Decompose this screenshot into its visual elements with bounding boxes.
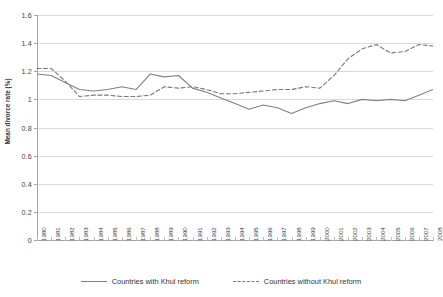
- x-tick-mark: [320, 237, 321, 241]
- y-tick-label: 0.8: [0, 124, 32, 133]
- x-tick-mark: [178, 237, 179, 241]
- x-tick-mark: [292, 237, 293, 241]
- x-tick-label: 1987: [139, 227, 146, 241]
- x-tick-mark: [306, 237, 307, 241]
- x-tick-label: 1988: [153, 227, 160, 241]
- x-tick-label: 2004: [379, 227, 386, 241]
- x-tick-label: 1990: [181, 227, 188, 241]
- y-tick-label: 0.2: [0, 208, 32, 217]
- x-tick-mark: [419, 237, 420, 241]
- x-tick-label: 1984: [97, 227, 104, 241]
- x-tick-label: 1994: [238, 227, 245, 241]
- plot-area: [37, 15, 433, 240]
- x-tick-mark: [249, 237, 250, 241]
- x-tick-mark: [362, 237, 363, 241]
- x-tick-label: 1981: [54, 227, 61, 241]
- x-tick-mark: [193, 237, 194, 241]
- x-tick-label: 1985: [111, 227, 118, 241]
- y-tick-label: 0: [0, 236, 32, 245]
- x-tick-mark: [164, 237, 165, 241]
- x-tick-label: 1980: [40, 227, 47, 241]
- y-tick-label: 0.4: [0, 180, 32, 189]
- y-tick-label: 1.6: [0, 11, 32, 20]
- x-tick-label: 2006: [408, 227, 415, 241]
- x-tick-mark: [37, 237, 38, 241]
- legend-item-without-reform[interactable]: Countries without Khul reform: [233, 277, 361, 286]
- x-tick-label: 1997: [280, 227, 287, 241]
- x-tick-label: 2001: [337, 227, 344, 241]
- x-tick-label: 1989: [167, 227, 174, 241]
- y-tick-label: 0.6: [0, 152, 32, 161]
- x-tick-mark: [51, 237, 52, 241]
- series-svg: [37, 15, 433, 240]
- x-tick-mark: [277, 237, 278, 241]
- x-tick-label: 1983: [82, 227, 89, 241]
- x-tick-mark: [65, 237, 66, 241]
- x-tick-mark: [122, 237, 123, 241]
- y-tick-label: 1: [0, 95, 32, 104]
- solid-line-icon: [81, 278, 107, 286]
- series-line-without-reform: [37, 45, 433, 97]
- x-tick-mark: [376, 237, 377, 241]
- x-tick-mark: [94, 237, 95, 241]
- x-tick-label: 1986: [125, 227, 132, 241]
- x-tick-label: 2005: [394, 227, 401, 241]
- chart-legend: Countries with Khul reform Countries wit…: [0, 277, 442, 286]
- legend-item-with-reform[interactable]: Countries with Khul reform: [81, 277, 199, 286]
- x-tick-mark: [334, 237, 335, 241]
- x-tick-mark: [348, 237, 349, 241]
- x-tick-label: 1995: [252, 227, 259, 241]
- x-tick-mark: [235, 237, 236, 241]
- x-tick-label: 1991: [196, 227, 203, 241]
- x-tick-mark: [108, 237, 109, 241]
- x-tick-mark: [150, 237, 151, 241]
- dashed-line-icon: [233, 278, 259, 286]
- x-tick-label: 2000: [323, 227, 330, 241]
- x-tick-label: 1999: [309, 227, 316, 241]
- x-tick-label: 1996: [266, 227, 273, 241]
- x-tick-mark: [79, 237, 80, 241]
- x-tick-label: 2008: [436, 227, 443, 241]
- x-tick-mark: [221, 237, 222, 241]
- x-tick-mark: [136, 237, 137, 241]
- x-tick-label: 1998: [295, 227, 302, 241]
- legend-label-with-reform: Countries with Khul reform: [112, 277, 199, 286]
- x-tick-mark: [263, 237, 264, 241]
- x-tick-mark: [391, 237, 392, 241]
- x-tick-mark: [207, 237, 208, 241]
- x-tick-mark: [405, 237, 406, 241]
- y-tick-label: 1.2: [0, 67, 32, 76]
- x-tick-label: 1992: [210, 227, 217, 241]
- legend-label-without-reform: Countries without Khul reform: [264, 277, 361, 286]
- x-tick-label: 2003: [365, 227, 372, 241]
- x-tick-label: 1993: [224, 227, 231, 241]
- y-tick-label: 1.4: [0, 39, 32, 48]
- x-tick-mark: [433, 237, 434, 241]
- x-tick-label: 2002: [351, 227, 358, 241]
- x-tick-label: 2007: [422, 227, 429, 241]
- x-tick-label: 1982: [68, 227, 75, 241]
